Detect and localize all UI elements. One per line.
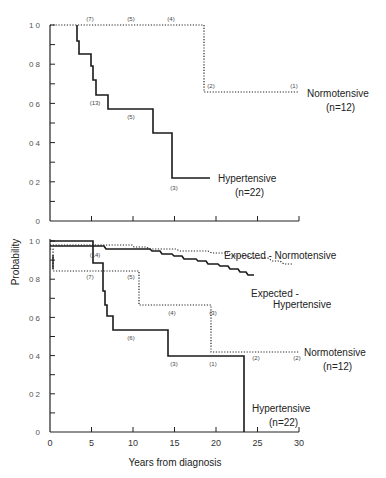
top-risk-label: (7) — [86, 16, 93, 22]
xtick-15: 15 — [169, 438, 179, 448]
bottom-risk-label: (6) — [127, 335, 134, 341]
bottom-ytick-1.0: 1 0 — [29, 237, 41, 246]
top-hypertensive-label: Hypertensive — [218, 173, 277, 184]
top-x-ticks — [92, 216, 300, 221]
top-risk-label: (2) — [207, 83, 214, 89]
xtick-10: 10 — [128, 438, 138, 448]
bottom-hypertensive-label: Hypertensive — [252, 403, 311, 414]
top-risk-label: (3) — [170, 185, 177, 191]
top-ytick-1.0: 1 0 — [29, 21, 41, 30]
bottom-panel: 0 0 2 0 4 0 6 0 8 1 0 0 5 10 15 20 25 30… — [29, 237, 366, 468]
top-normotensive-n: (n=12) — [326, 102, 355, 113]
top-risk-label: (13) — [90, 100, 101, 106]
bottom-risk-label: (1) — [209, 361, 216, 367]
bottom-hypertensive-n: (n=22) — [269, 417, 298, 428]
survival-chart: 0 0 2 0 4 0 6 0 8 1 0 (7) (5) (4) (13) (… — [0, 0, 386, 478]
bottom-normotensive-label: Normotensive — [304, 347, 366, 358]
bottom-risk-label: (2) — [252, 355, 259, 361]
bottom-risk-label: (7) — [86, 274, 93, 280]
bottom-ytick-0.6: 0 6 — [29, 314, 41, 323]
top-ytick-0.8: 0 8 — [29, 60, 41, 69]
top-panel: 0 0 2 0 4 0 6 0 8 1 0 (7) (5) (4) (13) (… — [29, 16, 369, 226]
bottom-risk-label: (3) — [170, 361, 177, 367]
top-ytick-0.2: 0 2 — [29, 178, 41, 187]
bottom-risk-label: (14) — [90, 252, 101, 258]
bottom-ytick-0: 0 — [36, 428, 41, 437]
top-risk-label: (5) — [127, 114, 134, 120]
bottom-x-ticks — [92, 427, 300, 432]
top-normotensive-label: Normotensive — [307, 88, 369, 99]
bottom-ytick-0.8: 0 8 — [29, 275, 41, 284]
bottom-hypertensive-curve — [50, 241, 244, 432]
xtick-0: 0 — [47, 438, 52, 448]
xtick-20: 20 — [211, 438, 221, 448]
top-hypertensive-n: (n=22) — [235, 187, 264, 198]
x-axis-title: Years from diagnosis — [128, 457, 221, 468]
bottom-ytick-0.2: 0 2 — [29, 390, 41, 399]
top-ytick-0.6: 0 6 — [29, 100, 41, 109]
expected-normotensive-label: Expected - Normotensive — [224, 250, 337, 261]
top-ytick-0.4: 0 4 — [29, 139, 41, 148]
y-axis-title: Probability — [10, 239, 21, 286]
expected-hypertensive-label-2: Hypertensive — [273, 299, 332, 310]
xtick-30: 30 — [294, 438, 304, 448]
bottom-risk-label: (5) — [127, 274, 134, 280]
top-risk-label: (4) — [167, 16, 174, 22]
top-risk-label: (1) — [290, 83, 297, 89]
bottom-risk-label: (2) — [293, 355, 300, 361]
top-ytick-0: 0 — [36, 217, 41, 226]
bottom-ytick-0.4: 0 4 — [29, 352, 41, 361]
xtick-25: 25 — [252, 438, 262, 448]
bottom-risk-label: (4) — [168, 310, 175, 316]
bottom-normotensive-n: (n=12) — [323, 361, 352, 372]
bottom-risk-label: (3) — [209, 310, 216, 316]
expected-hypertensive-label-1: Expected - — [251, 288, 299, 299]
xtick-5: 5 — [89, 438, 94, 448]
bottom-normotensive-curve — [50, 249, 299, 352]
top-risk-label: (5) — [127, 16, 134, 22]
top-normotensive-curve — [50, 25, 299, 92]
top-y-ticks — [50, 25, 55, 201]
